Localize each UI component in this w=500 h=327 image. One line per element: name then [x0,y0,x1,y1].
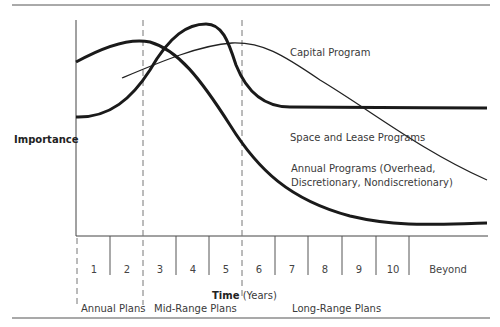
tick-label: 8 [308,264,342,276]
space-lease-programs-line [76,24,487,117]
tick-label: 7 [275,264,309,276]
x-axis-title-bold: Time [212,290,239,301]
tick-label: Beyond [409,264,487,276]
tick-label: 9 [342,264,376,276]
tick-label: 6 [242,264,276,276]
tick-label: 10 [376,264,410,276]
tick-label: 5 [209,264,243,276]
annual-plans-label: Annual Plans [81,303,145,315]
mid-range-plans-label: Mid-Range Plans [154,303,237,315]
tick-label: 4 [176,264,210,276]
tick-label: 1 [77,264,111,276]
annual-programs-label-line1: Annual Programs (Overhead, [291,163,435,175]
capital-program-line [122,43,487,180]
annual-programs-line [76,41,487,224]
x-axis-title-unit: (Years) [239,290,276,301]
annual-programs-label-line2: Discretionary, Nondiscretionary) [291,177,453,189]
y-axis-label: Importance [14,134,78,146]
tick-label: 2 [110,264,144,276]
space-lease-label: Space and Lease Programs [290,132,425,144]
x-axis-title: Time (Years) [212,290,277,302]
long-range-plans-label: Long-Range Plans [292,303,381,315]
capital-program-label: Capital Program [290,47,370,59]
tick-label: 3 [143,264,177,276]
